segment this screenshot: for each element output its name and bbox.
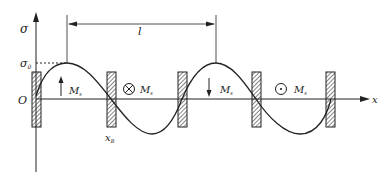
svg-text:Ms: Ms [68, 85, 82, 97]
domain-wall [32, 72, 41, 127]
axis-arrow-icon [33, 12, 39, 22]
origin-label: O [18, 94, 27, 107]
magnetization-up: Ms [59, 76, 83, 97]
stress-diagram: σ x O σ0 l xB Ms Ms Ms Ms [0, 0, 378, 183]
magnetization-into-page: Ms [124, 84, 154, 97]
svg-text:Ms: Ms [139, 84, 153, 96]
magnetization-down: Ms [207, 78, 234, 97]
x-axis-label: x [372, 94, 378, 105]
up-arrow-icon [59, 76, 64, 83]
svg-text:Ms: Ms [219, 84, 233, 96]
xB-label: xB [105, 132, 115, 144]
period-dimension [67, 15, 216, 63]
period-label: l [138, 25, 142, 38]
svg-text:Ms: Ms [293, 84, 307, 96]
magnetization-out-of-page: Ms [276, 84, 308, 97]
down-arrow-icon [207, 90, 212, 97]
sigma0-label: σ0 [20, 57, 32, 70]
sigma-axis-label: σ [20, 22, 29, 36]
x-axis [36, 96, 370, 102]
axis-arrow-icon [360, 96, 370, 102]
